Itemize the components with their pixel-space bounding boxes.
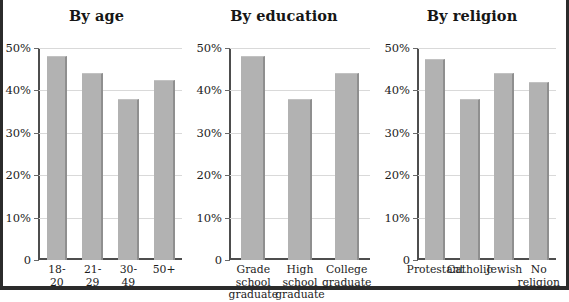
bar-series: Grade school graduateHigh school graduat… [230, 48, 370, 260]
bar [82, 73, 103, 260]
bar-group: 18-20 [39, 48, 75, 260]
y-axis-tick-label: 10% [384, 211, 410, 225]
y-axis-tick-label: 50% [196, 41, 222, 55]
bar [288, 99, 312, 260]
bar [154, 80, 175, 260]
bar-group: No religion [522, 48, 557, 260]
x-axis-tick-label: College graduate [322, 264, 372, 289]
bar [47, 56, 68, 260]
bar [529, 82, 549, 260]
y-axis-tick-label: 40% [5, 83, 31, 97]
x-axis-tick-label: Grade school graduate [229, 264, 279, 302]
y-axis-tick-label: 0 [215, 253, 222, 267]
plot-area: 50%40%30%20%10%0 18-2021-2930-4950+ [39, 48, 182, 260]
bar [118, 99, 139, 260]
bar-group: Catholic [453, 48, 488, 260]
chart-panels: By age 50%40%30%20%10%0 18-2021-2930-495… [3, 0, 566, 286]
panel-title: By religion [378, 7, 566, 24]
plot-area: 50%40%30%20%10%0 ProtestantCatholicJewis… [418, 48, 556, 260]
y-axis-tick-label: 10% [5, 211, 31, 225]
bar-group: 30-49 [111, 48, 147, 260]
y-axis-tick [225, 260, 230, 261]
y-axis-tick-label: 40% [384, 83, 410, 97]
x-axis-tick-label: 30-49 [119, 264, 137, 289]
x-axis-tick-label: 18-20 [48, 264, 66, 289]
panel-title: By education [190, 7, 378, 24]
bar-group: Grade school graduate [230, 48, 277, 260]
bar-group: College graduate [323, 48, 370, 260]
y-axis-tick [413, 260, 418, 261]
chart-panel-by-education: By education 50%40%30%20%10%0 Grade scho… [190, 0, 378, 286]
y-axis-tick [34, 260, 39, 261]
bar-group: High school graduate [277, 48, 324, 260]
y-axis-tick-label: 30% [196, 126, 222, 140]
bar-group: Jewish [487, 48, 522, 260]
bar-series: 18-2021-2930-4950+ [39, 48, 182, 260]
bar [460, 99, 480, 260]
bar [335, 73, 359, 260]
bar-group: 21-29 [75, 48, 111, 260]
bar-group: 50+ [146, 48, 182, 260]
x-axis-tick-label: 50+ [153, 264, 176, 277]
y-axis-tick-label: 30% [5, 126, 31, 140]
y-axis-tick-label: 50% [5, 41, 31, 55]
y-axis-tick-label: 20% [5, 168, 31, 182]
x-axis-tick-label: 21-29 [84, 264, 102, 289]
y-axis-tick-label: 20% [384, 168, 410, 182]
bar [425, 59, 445, 260]
bar [494, 73, 514, 260]
bar-group: Protestant [418, 48, 453, 260]
chart-panel-by-religion: By religion 50%40%30%20%10%0 ProtestantC… [378, 0, 566, 286]
plot-area: 50%40%30%20%10%0 Grade school graduateHi… [230, 48, 370, 260]
y-axis-tick-label: 40% [196, 83, 222, 97]
y-axis-tick-label: 30% [384, 126, 410, 140]
chart-panel-by-age: By age 50%40%30%20%10%0 18-2021-2930-495… [3, 0, 190, 286]
y-axis-tick-label: 0 [24, 253, 31, 267]
x-axis-tick-label: No religion [518, 264, 560, 289]
bar-series: ProtestantCatholicJewishNo religion [418, 48, 556, 260]
y-axis-tick-label: 20% [196, 168, 222, 182]
bar [241, 56, 265, 260]
y-axis-tick-label: 50% [384, 41, 410, 55]
panel-title: By age [3, 7, 190, 24]
x-axis-tick-label: High school graduate [275, 264, 325, 302]
y-axis-tick-label: 10% [196, 211, 222, 225]
